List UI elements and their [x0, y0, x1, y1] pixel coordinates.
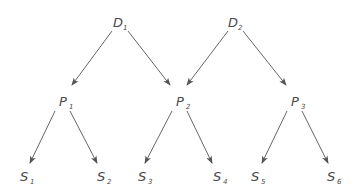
node-letter: P	[176, 94, 184, 109]
node-d2: D2	[228, 15, 243, 32]
node-s5: S5	[251, 169, 266, 186]
node-letter: S	[20, 169, 28, 184]
tree-diagram: D1D2P1P2P3S1S2S3S4S5S6	[0, 0, 356, 190]
node-p1: P1	[59, 94, 73, 111]
arrow-p2-to-s4	[187, 111, 212, 163]
node-subscript: 1	[30, 178, 34, 186]
node-letter: P	[59, 94, 67, 109]
arrow-d1-to-p2	[128, 31, 170, 85]
node-s4: S4	[213, 169, 227, 186]
node-subscript: 1	[69, 103, 73, 111]
node-s3: S3	[138, 169, 152, 186]
node-letter: S	[251, 169, 259, 184]
node-subscript: 2	[238, 24, 243, 32]
node-s6: S6	[327, 169, 342, 186]
node-d1: D1	[113, 15, 127, 32]
node-letter: D	[228, 15, 238, 30]
node-subscript: 4	[223, 178, 227, 186]
node-subscript: 3	[301, 103, 305, 111]
node-subscript: 3	[148, 178, 152, 186]
arrow-p1-to-s2	[70, 111, 97, 163]
node-s1: S1	[20, 169, 34, 186]
node-letter: P	[291, 94, 299, 109]
node-subscript: 2	[186, 103, 191, 111]
arrow-d2-to-p2	[187, 31, 228, 85]
arrow-p1-to-s1	[30, 111, 55, 163]
node-subscript: 1	[123, 24, 127, 32]
node-p3: P3	[291, 94, 305, 111]
nodes-group: D1D2P1P2P3S1S2S3S4S5S6	[20, 15, 342, 186]
arrow-d2-to-p3	[243, 31, 286, 85]
arrow-p3-to-s6	[302, 111, 328, 163]
node-letter: S	[213, 169, 221, 184]
arrow-p2-to-s3	[145, 111, 172, 163]
node-p2: P2	[176, 94, 191, 111]
arrow-d1-to-p1	[72, 31, 112, 85]
node-letter: S	[97, 169, 105, 184]
node-s2: S2	[97, 169, 112, 186]
node-letter: S	[138, 169, 146, 184]
node-letter: S	[327, 169, 335, 184]
arrow-p3-to-s5	[262, 111, 287, 163]
node-subscript: 2	[107, 178, 112, 186]
node-letter: D	[113, 15, 123, 30]
node-subscript: 6	[337, 178, 342, 186]
node-subscript: 5	[261, 178, 266, 186]
